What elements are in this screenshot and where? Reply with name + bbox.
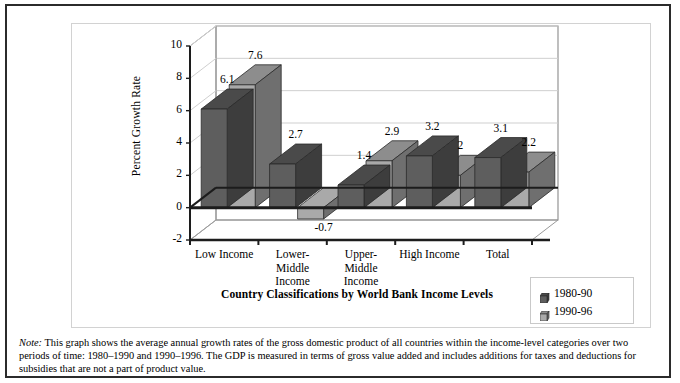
value-label: 2.7 [279, 128, 313, 140]
x-axis-label-total: Total [455, 248, 541, 262]
x-axis-label-line: Income [318, 275, 404, 289]
value-label: 3.2 [415, 120, 449, 132]
legend-label-1980-90: 1980-90 [554, 287, 592, 299]
figure-note: Note: This graph shows the average annua… [19, 336, 661, 376]
value-label: 3.1 [484, 122, 518, 134]
y-axis-tick-10: 10 [158, 38, 182, 50]
y-axis-tick-0: 0 [158, 200, 182, 212]
note-body: This graph shows the average annual grow… [19, 337, 636, 374]
value-label: 1.4 [347, 149, 381, 161]
chart-title: Country Classifications by World Bank In… [142, 288, 572, 300]
x-axis-label-line: Middle [318, 262, 404, 276]
value-label: 2.2 [512, 136, 546, 148]
y-axis-tick-2: 2 [158, 167, 182, 179]
legend-item-series2: 1990-96 [540, 302, 633, 320]
legend-swatch-1980-90 [540, 289, 549, 298]
legend-label-1990-96: 1990-96 [554, 305, 592, 317]
note-prefix: Note: [19, 337, 42, 348]
legend-swatch-1990-96 [540, 307, 549, 316]
value-label: 2.9 [375, 125, 409, 137]
legend-item-series1: 1980-90 [540, 284, 633, 302]
figure-container: Percent Growth Rate 1086420-2 Low Income… [5, 4, 671, 378]
y-axis-tick-8: 8 [158, 70, 182, 82]
value-label: 7.6 [238, 49, 272, 61]
legend: 1980-90 1990-96 [530, 277, 634, 324]
y-axis-tick-neg2: -2 [158, 232, 182, 244]
y-axis-tick-4: 4 [158, 135, 182, 147]
y-axis-title: Percent Growth Rate [130, 56, 142, 196]
chart-panel: Percent Growth Rate 1086420-2 Low Income… [71, 23, 651, 328]
y-axis-tick-6: 6 [158, 103, 182, 115]
value-label: -0.7 [307, 221, 341, 233]
value-label: 2 [443, 139, 477, 151]
x-axis-label-line: Total [455, 248, 541, 262]
value-label: 6.1 [210, 73, 244, 85]
